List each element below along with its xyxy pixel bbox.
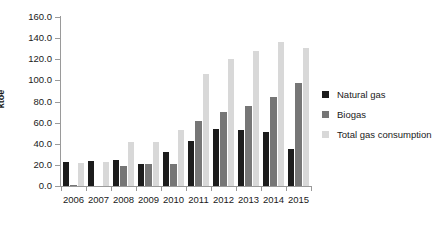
bar xyxy=(63,162,69,186)
bar xyxy=(288,149,294,186)
bar xyxy=(138,164,144,186)
x-axis-tick-label: 2007 xyxy=(88,194,109,205)
y-axis-tick-label: 0.0 xyxy=(0,181,52,191)
y-axis-tick-label: 60.0 xyxy=(0,118,52,128)
bar xyxy=(178,130,184,186)
bar xyxy=(270,97,276,186)
x-axis-tick-label: 2014 xyxy=(263,194,284,205)
x-axis-tick-label: 2013 xyxy=(238,194,259,205)
y-axis-tick-label: 40.0 xyxy=(0,139,52,149)
bar xyxy=(278,42,284,186)
bar xyxy=(88,161,94,186)
y-axis-tick xyxy=(55,123,60,124)
x-axis-tick-label: 2015 xyxy=(288,194,309,205)
bar xyxy=(213,129,219,186)
bar xyxy=(170,164,176,186)
y-axis-tick-label: 20.0 xyxy=(0,160,52,170)
y-axis-tick-label: 120.0 xyxy=(0,55,52,65)
bar xyxy=(163,152,169,186)
bar xyxy=(103,162,109,186)
y-axis-tick-label: 140.0 xyxy=(0,33,52,43)
x-axis-tick xyxy=(261,187,262,191)
chart-legend: Natural gasBiogasTotal gas consumption xyxy=(322,84,432,144)
legend-item: Total gas consumption xyxy=(322,124,432,144)
x-axis-tick xyxy=(211,187,212,191)
x-axis-tick xyxy=(111,187,112,191)
legend-item-label: Biogas xyxy=(337,109,366,120)
bar xyxy=(203,74,209,186)
bar xyxy=(303,48,309,186)
legend-swatch-icon xyxy=(322,111,329,118)
x-axis-tick xyxy=(236,187,237,191)
bar xyxy=(228,59,234,186)
bar xyxy=(78,163,84,186)
x-axis-tick xyxy=(61,187,62,191)
x-axis-tick xyxy=(161,187,162,191)
x-axis-tick-label: 2012 xyxy=(213,194,234,205)
bar-chart: ktoe 0.020.040.060.080.0100.0120.0140.01… xyxy=(0,0,435,230)
bar xyxy=(128,142,134,186)
x-axis-tick xyxy=(136,187,137,191)
bar xyxy=(120,166,126,186)
y-axis-tick-label: 80.0 xyxy=(0,97,52,107)
bar xyxy=(153,142,159,186)
x-axis-tick-label: 2010 xyxy=(163,194,184,205)
x-axis-tick xyxy=(186,187,187,191)
x-axis-tick xyxy=(311,187,312,191)
legend-swatch-icon xyxy=(322,131,329,138)
y-axis-tick xyxy=(55,59,60,60)
y-axis-tick-label: 160.0 xyxy=(0,12,52,22)
x-axis-tick xyxy=(286,187,287,191)
x-axis-tick-label: 2008 xyxy=(113,194,134,205)
x-axis-tick-label: 2006 xyxy=(63,194,84,205)
bar xyxy=(295,83,301,187)
legend-item: Natural gas xyxy=(322,84,432,104)
bar xyxy=(238,130,244,186)
bar xyxy=(245,106,251,186)
y-axis-tick xyxy=(55,17,60,18)
x-axis-tick-label: 2011 xyxy=(188,194,208,205)
plot-area xyxy=(61,17,311,186)
legend-swatch-icon xyxy=(322,91,329,98)
y-axis-tick-label: 100.0 xyxy=(0,76,52,86)
legend-item: Biogas xyxy=(322,104,432,124)
x-axis-tick xyxy=(86,187,87,191)
bar xyxy=(188,141,194,186)
bar xyxy=(263,132,269,186)
y-axis-tick xyxy=(55,186,60,187)
y-axis-tick xyxy=(55,165,60,166)
y-axis-tick xyxy=(55,102,60,103)
x-axis-tick-label: 2009 xyxy=(138,194,159,205)
bar xyxy=(113,160,119,186)
bar xyxy=(195,121,201,186)
bar xyxy=(220,112,226,186)
y-axis-tick xyxy=(55,80,60,81)
legend-item-label: Natural gas xyxy=(337,89,386,100)
bar xyxy=(145,164,151,186)
bar xyxy=(70,185,76,186)
bar xyxy=(253,51,259,186)
y-axis-tick xyxy=(55,144,60,145)
legend-item-label: Total gas consumption xyxy=(337,129,432,140)
y-axis-tick xyxy=(55,38,60,39)
